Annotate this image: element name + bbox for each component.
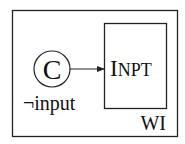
state-label: C	[43, 54, 62, 85]
input-box-label: INPT	[110, 56, 152, 81]
outer-box-label: WI	[140, 112, 166, 134]
input-box-label-rest: NPT	[118, 60, 152, 80]
guard-label: ¬input	[23, 92, 76, 115]
input-box-label-first: I	[110, 56, 118, 81]
diagram-canvas: C ¬input INPT WI	[0, 0, 185, 144]
